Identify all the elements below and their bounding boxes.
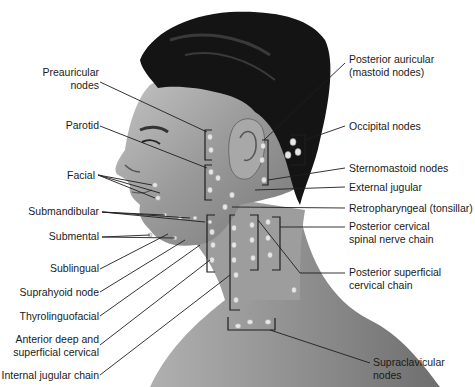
label-parotid: Parotid: [66, 119, 99, 132]
label-preauricular-line2: nodes: [42, 79, 99, 92]
label-supraclavicular-line2: nodes: [373, 369, 445, 382]
lymph-node-diagram: Preauricular nodes Parotid Facial Subman…: [0, 0, 475, 387]
label-supraclavicular-line1: Supraclavicular: [373, 356, 445, 369]
label-suprahyoid: Suprahyoid node: [20, 286, 99, 299]
label-posterior-superficial: Posterior superficial cervical chain: [349, 266, 441, 292]
label-posterior-superficial-line1: Posterior superficial: [349, 266, 441, 279]
label-anterior-deep-line1: Anterior deep and: [13, 333, 99, 346]
label-retropharyngeal: Retropharyngeal (tonsillar): [349, 202, 473, 215]
label-posterior-superficial-line2: cervical chain: [349, 279, 441, 292]
label-posterior-cervical-line2: spinal nerve chain: [349, 233, 434, 246]
label-thyrolinguofacial: Thyrolinguofacial: [20, 310, 99, 323]
label-posterior-auricular-line2: (mastoid nodes): [349, 66, 434, 79]
label-posterior-cervical: Posterior cervical spinal nerve chain: [349, 220, 434, 246]
label-supraclavicular: Supraclavicular nodes: [373, 356, 445, 382]
label-anterior-deep: Anterior deep and superficial cervical: [13, 333, 99, 359]
label-sublingual: Sublingual: [50, 262, 99, 275]
label-external-jugular: External jugular: [349, 181, 422, 194]
label-posterior-cervical-line1: Posterior cervical: [349, 220, 434, 233]
label-preauricular-line1: Preauricular: [42, 66, 99, 79]
label-submandibular: Submandibular: [28, 205, 99, 218]
label-anterior-deep-line2: superficial cervical: [13, 346, 99, 359]
label-posterior-auricular-line1: Posterior auricular: [349, 53, 434, 66]
label-submental: Submental: [49, 230, 99, 243]
label-sternomastoid: Sternomastoid nodes: [349, 162, 448, 175]
label-occipital: Occipital nodes: [349, 120, 421, 133]
label-preauricular: Preauricular nodes: [42, 66, 99, 92]
label-facial: Facial: [67, 169, 95, 182]
label-internal-jugular: Internal jugular chain: [2, 369, 99, 382]
label-posterior-auricular: Posterior auricular (mastoid nodes): [349, 53, 434, 79]
